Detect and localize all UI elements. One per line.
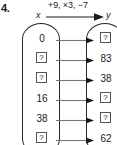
right-arrow-icon — [46, 13, 104, 21]
input-value-2[interactable]: ? — [36, 72, 47, 83]
input-variable-label: x — [36, 10, 41, 21]
input-value-3: 16 — [29, 90, 55, 106]
table-row: ? 83 — [22, 50, 117, 68]
function-machine-figure: 4. +9, ×3, −7 x y 0 ? ? 83 ? 38 — [0, 0, 117, 145]
table-row: 38 ? — [22, 110, 117, 128]
output-value-2: 38 — [93, 70, 117, 86]
input-value-4: 38 — [29, 110, 55, 126]
output-value-4[interactable]: ? — [100, 112, 111, 123]
rule-expression: +9, ×3, −7 — [48, 0, 88, 10]
input-value-1[interactable]: ? — [36, 52, 47, 63]
table-row: ? 38 — [22, 70, 117, 88]
mapping-arrow-icon — [56, 117, 94, 124]
output-value-3[interactable]: ? — [100, 92, 111, 103]
input-value-0: 0 — [29, 30, 55, 46]
mapping-arrow-icon — [56, 57, 94, 64]
table-row: 0 ? — [22, 30, 117, 48]
output-variable-label: y — [106, 10, 111, 21]
mapping-arrow-icon — [56, 77, 94, 84]
mapping-arrow-icon — [56, 137, 94, 144]
mapping-arrow-icon — [56, 97, 94, 104]
rule-header: +9, ×3, −7 x y — [36, 0, 117, 22]
table-row: 16 ? — [22, 90, 117, 108]
table-row: ? 62 — [22, 130, 117, 145]
mapping-arrow-icon — [56, 37, 94, 44]
input-value-5[interactable]: ? — [36, 132, 47, 143]
output-value-1: 83 — [93, 50, 117, 66]
problem-number: 4. — [1, 2, 10, 14]
output-value-0[interactable]: ? — [100, 32, 111, 43]
output-value-5: 62 — [93, 130, 117, 145]
